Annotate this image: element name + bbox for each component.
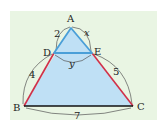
vertex-label-a: A: [66, 13, 75, 24]
segment-label-ec: 5: [113, 66, 119, 77]
triangle-diagram: A D E B C 2 x y 4 5 7: [0, 0, 165, 131]
vertex-label-d: D: [43, 47, 51, 58]
segment-label-bc: 7: [74, 110, 80, 121]
segment-label-de: y: [68, 58, 75, 69]
segment-label-db: 4: [29, 69, 35, 80]
segment-label-ae: x: [84, 27, 90, 38]
segment-label-ad: 2: [54, 28, 60, 39]
vertex-label-b: B: [13, 102, 20, 113]
vertex-label-c: C: [137, 101, 145, 112]
vertex-label-e: E: [94, 46, 101, 57]
